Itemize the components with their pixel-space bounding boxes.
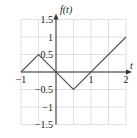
y-tick-label: 1.5 [41,14,54,25]
y-tick-label: 1 [48,32,53,43]
x-axis-label: t [130,60,133,71]
x-tick-label: 1 [89,74,94,85]
y-axis-label: f(t) [60,4,73,16]
x-tick-label: −1 [16,74,27,85]
function-plot: −1121.510.5−0.5−1−1.5 t f(t) [0,0,137,138]
y-tick-label: −1.5 [35,119,53,130]
y-tick-label: −0.5 [35,84,53,95]
axes [21,14,132,125]
y-axis-arrow-icon [54,14,59,20]
y-tick-label: −1 [42,102,53,113]
x-tick-label: 2 [124,74,129,85]
